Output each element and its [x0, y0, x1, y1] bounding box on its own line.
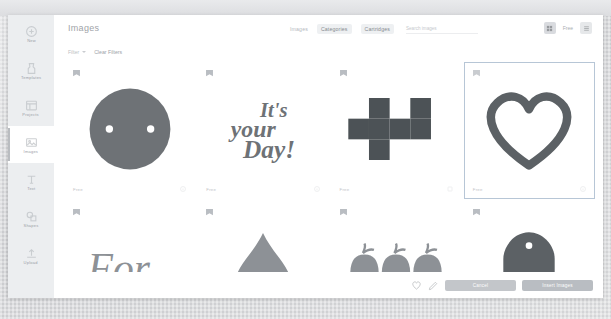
card-artwork — [332, 77, 461, 181]
sidebar-item-text[interactable]: Text — [8, 163, 54, 200]
svg-text:For: For — [86, 245, 150, 272]
ribbon-flag-icon — [73, 70, 80, 79]
header-controls: Free — [544, 22, 592, 34]
bottom-action-bar: Cancel Insert Images — [54, 272, 603, 298]
image-card-gift-tag[interactable]: Free — [464, 201, 595, 272]
card-artwork — [465, 77, 594, 181]
projects-icon — [25, 99, 38, 112]
ribbon-flag-icon — [340, 209, 347, 218]
pencil-icon[interactable] — [428, 280, 439, 291]
left-rail: New Templates Projects — [8, 15, 55, 298]
sidebar-label-images: Images — [24, 149, 39, 154]
clear-filters-button[interactable]: Clear Filters — [94, 49, 122, 55]
svg-text:Day!: Day! — [242, 135, 295, 163]
upload-icon — [25, 247, 38, 260]
sidebar-label-projects: Projects — [23, 112, 39, 117]
panel-tabs: Images Categories Cartridges — [290, 24, 394, 34]
info-icon[interactable] — [580, 186, 586, 192]
ribbon-flag-icon — [473, 209, 480, 218]
filter-dropdown[interactable]: Filter — [68, 49, 86, 55]
sidebar-label-text: Text — [27, 186, 35, 191]
image-card-teardrop-leaf[interactable]: Free — [197, 201, 328, 272]
sidebar-item-shapes[interactable]: Shapes — [8, 200, 54, 237]
shapes-icon — [25, 210, 38, 223]
card-artwork: It's your Day! — [198, 77, 327, 181]
ribbon-flag-icon — [73, 209, 80, 218]
image-card-its-your-day[interactable]: It's your Day! Free — [197, 62, 328, 199]
image-card-three-pumpkins[interactable]: Free — [331, 201, 462, 272]
panel-header: Images Images Categories Cartridges Sear… — [54, 15, 603, 45]
image-card-heart-outline[interactable]: Free — [464, 62, 595, 199]
filter-bar: Filter Clear Filters — [54, 45, 603, 59]
sidebar-label-shapes: Shapes — [23, 223, 38, 228]
sidebar-label-upload: Upload — [24, 260, 38, 265]
sidebar-item-projects[interactable]: Projects — [8, 89, 54, 126]
card-price: Free — [206, 187, 216, 192]
info-icon[interactable] — [180, 186, 186, 192]
sidebar-item-images[interactable]: Images — [8, 126, 54, 163]
tab-cartridges[interactable]: Cartridges — [361, 24, 394, 34]
filter-dropdown-label: Filter — [68, 49, 79, 55]
grid-view-icon[interactable] — [544, 22, 556, 34]
card-price: Free — [473, 187, 483, 192]
free-filter-link[interactable]: Free — [563, 25, 573, 31]
card-price: Free — [340, 187, 350, 192]
desktop-sheen — [0, 0, 611, 16]
list-view-icon[interactable] — [580, 22, 592, 34]
card-artwork — [65, 77, 194, 181]
card-footer: Free — [73, 186, 186, 192]
page-title: Images — [68, 23, 99, 33]
new-project-icon — [25, 25, 38, 38]
info-icon[interactable] — [314, 186, 320, 192]
card-artwork — [465, 216, 594, 272]
card-artwork — [198, 216, 327, 272]
cancel-button[interactable]: Cancel — [445, 280, 516, 291]
card-footer: Free — [206, 186, 319, 192]
ribbon-flag-icon — [206, 209, 213, 218]
card-artwork — [332, 216, 461, 272]
tab-categories[interactable]: Categories — [317, 24, 352, 34]
sidebar-item-upload[interactable]: Upload — [8, 237, 54, 274]
card-footer: Free — [340, 186, 453, 192]
card-footer: Free — [473, 186, 586, 192]
tab-images[interactable]: Images — [290, 26, 308, 32]
text-icon — [25, 173, 38, 186]
ribbon-flag-icon — [340, 70, 347, 79]
info-icon[interactable] — [447, 186, 453, 192]
design-space-window: New Templates Projects — [8, 15, 603, 298]
ribbon-flag-icon — [473, 70, 480, 79]
image-card-circle-tag[interactable]: Free — [64, 62, 195, 199]
templates-icon — [25, 62, 38, 75]
heart-icon[interactable] — [411, 280, 422, 291]
search-input[interactable]: Search images — [406, 24, 478, 34]
images-icon — [25, 136, 38, 149]
sidebar-item-templates[interactable]: Templates — [8, 52, 54, 89]
insert-images-button[interactable]: Insert Images — [522, 280, 593, 291]
image-card-for-script[interactable]: For Free — [64, 201, 195, 272]
card-price: Free — [73, 187, 83, 192]
image-card-pixel-blocks[interactable]: Free — [331, 62, 462, 199]
chevron-down-icon — [82, 51, 86, 53]
image-grid: Free It's your Day! — [64, 62, 595, 272]
card-artwork: For — [65, 216, 194, 272]
sidebar-label-new: New — [27, 38, 36, 43]
sidebar-label-templates: Templates — [21, 75, 41, 80]
sidebar-item-new[interactable]: New — [8, 15, 54, 52]
ribbon-flag-icon — [206, 70, 213, 79]
images-panel: Images Images Categories Cartridges Sear… — [54, 15, 603, 298]
